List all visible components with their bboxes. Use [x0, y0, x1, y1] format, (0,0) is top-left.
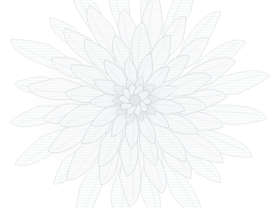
chrysanthemum-illustration	[0, 0, 280, 208]
core-hub	[129, 94, 140, 105]
illustration-canvas: Chrysanthemum Blossom chrysanthemum-flow…	[0, 0, 280, 208]
